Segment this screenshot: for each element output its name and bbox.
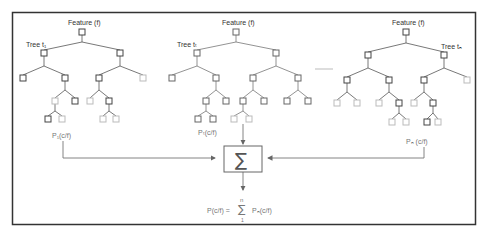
tree-1-label: Tree t₁ bbox=[26, 41, 46, 48]
formula-rhs: Pₙ(c/f) bbox=[252, 207, 272, 215]
arrow-tree1-to-sum bbox=[63, 141, 215, 158]
tree-1-prob-label: P₁(c/f) bbox=[52, 132, 71, 139]
tree-t-feature-label: Feature (f) bbox=[222, 19, 255, 26]
tree-n-feature-label: Feature (f) bbox=[392, 19, 425, 26]
root-node bbox=[79, 29, 85, 35]
tree-n-prob-label: Pₙ (c/f) bbox=[406, 138, 428, 146]
tree-t-label: Tree tₜ bbox=[177, 41, 197, 49]
tree-n-label: Tree tₙ bbox=[441, 43, 462, 51]
root-node bbox=[403, 29, 409, 35]
arrow-treen-to-sum bbox=[268, 147, 424, 158]
summation-icon: ∑ bbox=[235, 149, 247, 170]
formula-sum-symbol: ∑ bbox=[238, 203, 245, 216]
root-node bbox=[233, 29, 239, 35]
tree-1-feature-label: Feature (f) bbox=[68, 19, 101, 26]
tree-t-prob-label: Pₜ(c/f) bbox=[198, 129, 217, 137]
formula-lhs: P(c/f) = bbox=[207, 207, 230, 214]
formula-sum-lower: 1 bbox=[241, 217, 244, 223]
